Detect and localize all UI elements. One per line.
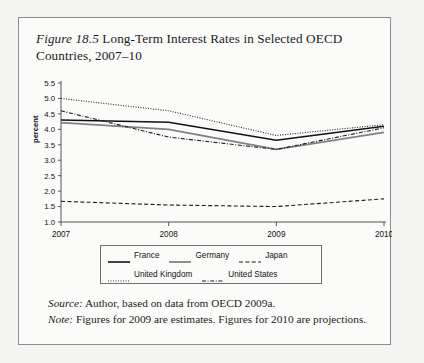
legend-label-germany: Germany xyxy=(195,251,229,260)
figure-number: Figure 18.5 xyxy=(36,31,99,46)
figure-frame: Figure 18.5 Long-Term Interest Rates in … xyxy=(18,17,391,345)
series-line-united-kingdom xyxy=(61,98,384,135)
chart-series-group xyxy=(61,98,384,206)
legend-label-united-kingdom: United Kingdom xyxy=(134,270,192,279)
legend-row-2: United Kingdom United States xyxy=(101,265,321,284)
y-tick-label: 4.5 xyxy=(44,110,56,119)
legend-item-france[interactable]: France xyxy=(108,251,159,260)
y-tick-label: 2.5 xyxy=(44,172,56,181)
series-line-japan xyxy=(61,199,384,207)
legend-label-japan: Japan xyxy=(265,251,287,260)
figure-footer: Source: Author, based on data from OECD … xyxy=(48,295,378,327)
y-tick-label: 1.0 xyxy=(44,218,56,227)
chart-plot-area: 1.01.52.02.53.03.54.04.55.05.5 200720082… xyxy=(19,78,392,246)
y-tick-label: 5.5 xyxy=(44,79,56,88)
y-tick-label: 4.0 xyxy=(44,125,56,134)
note-label: Note: xyxy=(48,313,73,325)
figure-title: Figure 18.5 Long-Term Interest Rates in … xyxy=(36,30,366,65)
y-tick-label: 3.5 xyxy=(44,141,56,150)
note-line: Note: Figures for 2009 are estimates. Fi… xyxy=(48,311,378,327)
y-tick-label: 1.5 xyxy=(44,202,56,211)
y-axis-ticks: 1.01.52.02.53.03.54.04.55.05.5 xyxy=(44,79,61,227)
series-line-germany xyxy=(61,123,384,150)
source-label: Source: xyxy=(48,297,83,309)
legend-item-japan[interactable]: Japan xyxy=(239,251,287,260)
note-text: Figures for 2009 are estimates. Figures … xyxy=(73,313,366,325)
legend-item-germany[interactable]: Germany xyxy=(169,251,229,260)
legend-line-united-states-icon xyxy=(202,271,224,279)
x-tick-label: 2008 xyxy=(160,230,179,239)
y-tick-label: 3.0 xyxy=(44,156,56,165)
legend-item-united-states[interactable]: United States xyxy=(202,270,277,279)
y-tick-label: 2.0 xyxy=(44,187,56,196)
source-line: Source: Author, based on data from OECD … xyxy=(48,295,378,311)
legend-item-united-kingdom[interactable]: United Kingdom xyxy=(108,270,192,279)
legend-line-japan-icon xyxy=(239,252,261,260)
legend-line-germany-icon xyxy=(169,252,191,260)
x-tick-label: 2010 xyxy=(375,230,392,239)
line-chart-svg: 1.01.52.02.53.03.54.04.55.05.5 200720082… xyxy=(19,78,392,246)
legend-label-france: France xyxy=(134,251,159,260)
x-tick-label: 2009 xyxy=(267,230,286,239)
legend-label-united-states: United States xyxy=(228,270,277,279)
chart-legend: France Germany Japan United Kingdom xyxy=(100,245,322,284)
chart-axes xyxy=(61,81,386,222)
x-axis-ticks: 2007200820092010 xyxy=(52,222,392,239)
legend-row-1: France Germany Japan xyxy=(101,246,321,265)
x-tick-label: 2007 xyxy=(52,230,71,239)
legend-line-france-icon xyxy=(108,252,130,260)
source-text: Author, based on data from OECD 2009a. xyxy=(83,297,276,309)
legend-line-united-kingdom-icon xyxy=(108,271,130,279)
y-tick-label: 5.0 xyxy=(44,94,56,103)
